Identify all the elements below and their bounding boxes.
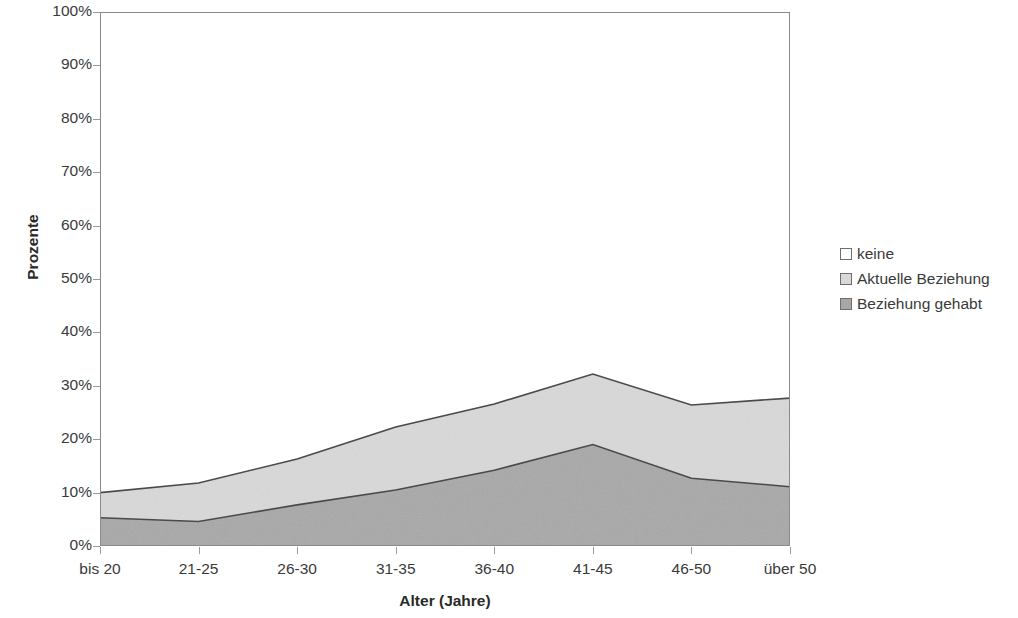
y-tick-label: 40% — [6, 322, 92, 340]
y-axis-ticks: 0%10%20%30%40%50%60%70%80%90%100% — [0, 0, 92, 618]
y-tick-mark — [93, 386, 100, 387]
x-tick-mark — [494, 547, 495, 554]
series-layer — [100, 12, 790, 546]
y-tick-label: 10% — [6, 483, 92, 501]
y-tick-label: 20% — [6, 429, 92, 447]
plot-area — [100, 12, 790, 546]
legend-swatch-icon — [840, 248, 852, 260]
y-tick-label: 60% — [6, 216, 92, 234]
y-tick-label: 0% — [6, 536, 92, 554]
legend-label: Aktuelle Beziehung — [857, 270, 990, 288]
y-tick-mark — [93, 279, 100, 280]
y-tick-mark — [93, 439, 100, 440]
x-tick-mark — [790, 547, 791, 554]
x-axis-title: Alter (Jahre) — [100, 592, 790, 610]
y-tick-label: 70% — [6, 162, 92, 180]
x-tick-mark — [593, 547, 594, 554]
y-tick-mark — [93, 12, 100, 13]
y-tick-mark — [93, 226, 100, 227]
y-tick-label: 80% — [6, 109, 92, 127]
legend-swatch-icon — [840, 298, 852, 310]
y-tick-mark — [93, 332, 100, 333]
legend-entry: Aktuelle Beziehung — [840, 266, 990, 291]
legend-label: keine — [857, 245, 894, 263]
y-tick-label: 50% — [6, 269, 92, 287]
legend-entry: keine — [840, 241, 990, 266]
y-tick-label: 30% — [6, 376, 92, 394]
x-tick-mark — [100, 547, 101, 554]
x-tick-mark — [297, 547, 298, 554]
legend-label: Beziehung gehabt — [857, 295, 982, 313]
y-tick-mark — [93, 493, 100, 494]
legend-swatch-icon — [840, 273, 852, 285]
y-tick-label: 90% — [6, 55, 92, 73]
y-tick-mark — [93, 119, 100, 120]
x-tick-label: über 50 — [730, 560, 850, 578]
y-tick-mark — [93, 546, 100, 547]
x-tick-mark — [691, 547, 692, 554]
area-chart: Prozente 0%10%20%30%40%50%60%70%80%90%10… — [0, 0, 1018, 618]
y-tick-mark — [93, 65, 100, 66]
x-tick-mark — [199, 547, 200, 554]
y-tick-label: 100% — [6, 2, 92, 20]
y-tick-mark — [93, 172, 100, 173]
x-tick-mark — [396, 547, 397, 554]
legend-entry: Beziehung gehabt — [840, 291, 990, 316]
chart-legend: keineAktuelle BeziehungBeziehung gehabt — [840, 241, 990, 316]
